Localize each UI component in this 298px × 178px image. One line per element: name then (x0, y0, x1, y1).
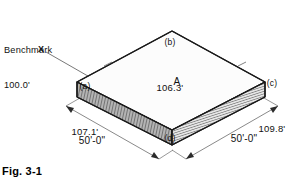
dimension-label-right: 50'-0" (216, 133, 272, 144)
corner-label-c: (c) 109.8' (248, 43, 296, 171)
corner-tag-a: (a) (63, 82, 107, 92)
leader-tick-c (238, 62, 246, 66)
corner-label-d: (d) 108.4' (142, 98, 198, 178)
slab-area-label: A (168, 76, 186, 87)
benchmark-elevation: 100.0' (4, 80, 52, 92)
figure-caption: Fig. 3-1 (2, 165, 42, 177)
figure-container: Benchmark 100.0' X (a) 107.1' (b) 106.3'… (0, 0, 298, 178)
corner-label-a: (a) 107.1' (63, 46, 107, 174)
dimension-label-left: 50'-0" (64, 135, 120, 146)
corner-tag-b: (b) (142, 38, 198, 48)
benchmark-title: Benchmark (4, 45, 52, 57)
benchmark-x-marker: X (38, 44, 44, 54)
corner-tag-c: (c) (248, 79, 296, 89)
benchmark-label: Benchmark 100.0' (4, 22, 52, 114)
corner-tag-d: (d) (142, 134, 198, 144)
